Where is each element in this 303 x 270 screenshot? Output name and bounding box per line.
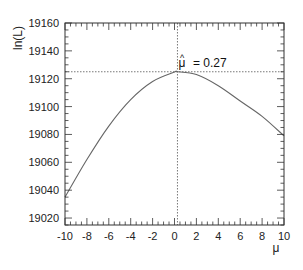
- y-axis-title: ln(L): [11, 26, 25, 50]
- plot-frame: [65, 23, 284, 225]
- x-axis-ticks: [65, 23, 284, 225]
- y-tick-label: 19080: [28, 128, 59, 140]
- y-axis-ticks: [65, 23, 284, 225]
- likelihood-curve: [65, 71, 284, 197]
- x-tick-label: -8: [82, 230, 92, 242]
- x-tick-label: 10: [278, 230, 290, 242]
- y-tick-label: 19100: [28, 101, 59, 113]
- likelihood-chart: -10-8-6-4-20246810 190201904019060190801…: [0, 0, 303, 270]
- y-axis-tick-labels: 1902019040190601908019100191201914019160: [28, 17, 59, 224]
- x-tick-label: 4: [215, 230, 221, 242]
- y-tick-label: 19120: [28, 73, 59, 85]
- x-tick-label: -2: [148, 230, 158, 242]
- mle-annotation: ^ μ = 0.27: [179, 53, 227, 70]
- y-tick-label: 19060: [28, 156, 59, 168]
- x-axis-title: μ: [273, 241, 280, 255]
- annotation-mu: μ: [179, 56, 186, 70]
- x-axis-tick-labels: -10-8-6-4-20246810: [57, 230, 290, 242]
- y-tick-label: 19040: [28, 184, 59, 196]
- annotation-value: = 0.27: [193, 56, 227, 70]
- x-tick-label: 2: [193, 230, 199, 242]
- x-tick-label: 8: [259, 230, 265, 242]
- y-tick-label: 19160: [28, 17, 59, 29]
- x-tick-label: 6: [237, 230, 243, 242]
- y-tick-label: 19140: [28, 45, 59, 57]
- x-tick-label: -6: [104, 230, 114, 242]
- x-tick-label: 0: [171, 230, 177, 242]
- reference-lines: [65, 23, 284, 225]
- x-tick-label: -10: [57, 230, 73, 242]
- y-tick-label: 19020: [28, 212, 59, 224]
- x-tick-label: -4: [126, 230, 136, 242]
- likelihood-line: [65, 71, 284, 197]
